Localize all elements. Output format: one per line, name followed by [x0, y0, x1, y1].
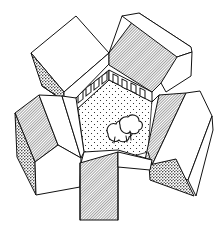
building-south [80, 150, 152, 220]
building-west [15, 95, 84, 195]
roof-slope-s [80, 152, 118, 220]
diagram-canvas [0, 0, 224, 231]
courtyard-diagram: Courtyard enclosed by five building bloc… [0, 0, 224, 231]
building-east [145, 91, 213, 196]
